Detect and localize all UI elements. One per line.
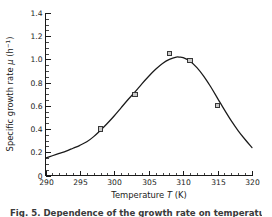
x-tick-label: 310 [176, 178, 191, 187]
y-tick-label: 0 [38, 172, 43, 181]
data-point-marker [215, 104, 219, 108]
figure-caption: Fig. 5. Dependence of the growth rate on… [10, 208, 262, 217]
x-tick-label: 300 [107, 178, 122, 187]
figure-container: 290295300305310315320 00.20.40.60.81.01.… [0, 0, 272, 217]
y-tick-label: 1.4 [30, 9, 42, 18]
data-point-marker [167, 52, 171, 56]
y-axis-title: Specific growth rate μ (h−1) [5, 37, 15, 152]
x-tick-label: 320 [245, 178, 260, 187]
x-axis-major-ticks [47, 171, 253, 176]
measured-data-points [98, 52, 219, 132]
y-tick-label: 1.0 [30, 55, 42, 64]
y-axis-tick-labels: 00.20.40.60.81.01.21.4 [30, 9, 42, 181]
data-point-marker [133, 92, 137, 96]
growth-rate-vs-temperature-chart: 290295300305310315320 00.20.40.60.81.01.… [0, 0, 272, 217]
x-axis-tick-labels: 290295300305310315320 [39, 178, 260, 187]
y-tick-label: 0.4 [30, 125, 42, 134]
y-tick-label: 0.8 [30, 79, 42, 88]
y-tick-label: 0.6 [30, 102, 42, 111]
fitted-growth-curve [46, 57, 253, 158]
x-tick-label: 315 [211, 178, 226, 187]
x-axis-title: Temperature T (K) [110, 190, 187, 200]
x-tick-label: 305 [142, 178, 157, 187]
data-point-marker [188, 58, 192, 62]
plot-axes [46, 13, 253, 176]
y-tick-label: 1.2 [30, 32, 42, 41]
data-point-marker [98, 127, 102, 131]
y-tick-label: 0.2 [30, 148, 42, 157]
x-tick-label: 295 [73, 178, 88, 187]
y-axis-major-ticks [46, 14, 51, 177]
